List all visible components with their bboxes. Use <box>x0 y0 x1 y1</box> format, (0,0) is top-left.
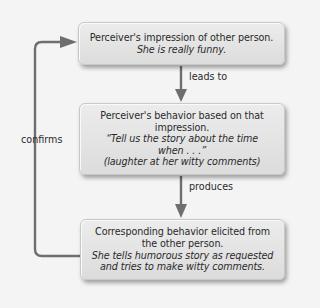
arrowhead-right-icon <box>60 36 77 48</box>
box-title: Corresponding behavior elicited from <box>81 226 284 238</box>
box-example: She tells humorous story as requested <box>81 250 284 262</box>
arrowhead-down-icon <box>175 89 187 102</box>
arrowhead-down-icon <box>175 204 187 218</box>
edge-label-leads-to: leads to <box>189 71 227 82</box>
box-perceiver-behavior: Perceiver's behavior based on that impre… <box>79 103 285 175</box>
box-title: impression. <box>80 122 284 134</box>
box-title: Perceiver's impression of other person. <box>79 32 284 44</box>
box-example: and tries to make witty comments. <box>81 261 284 273</box>
box-example: “Tell us the story about the time <box>80 133 284 145</box>
box-title: Perceiver's behavior based on that <box>80 110 284 122</box>
box-example: (laughter at her witty comments) <box>80 156 284 168</box>
edge-label-produces: produces <box>189 181 233 192</box>
edge-label-confirms: confirms <box>21 134 62 145</box>
box-title: the other person. <box>81 238 284 250</box>
box-impression: Perceiver's impression of other person. … <box>78 22 285 65</box>
box-example: when . . .” <box>80 145 284 157</box>
box-elicited-behavior: Corresponding behavior elicited from the… <box>80 219 285 280</box>
box-example: She is really funny. <box>79 44 284 56</box>
arrow-confirms-loop <box>35 42 80 256</box>
